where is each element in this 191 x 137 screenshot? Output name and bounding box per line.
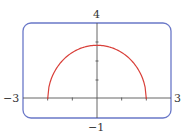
x-max-label: 3 xyxy=(174,92,181,105)
y-min-label: −1 xyxy=(88,121,104,134)
x-min-label: −3 xyxy=(3,92,19,105)
graph-window: −3 3 4 −1 xyxy=(0,0,191,137)
y-max-label: 4 xyxy=(93,8,100,21)
